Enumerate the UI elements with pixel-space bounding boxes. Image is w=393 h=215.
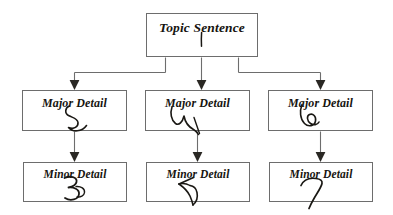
node-minor-detail-3-label: Minor Detail (270, 168, 372, 180)
node-minor-detail-1-label: Minor Detail (24, 168, 126, 180)
arrowhead-major-1 (70, 80, 80, 90)
node-major-detail-1[interactable]: Major Detail (22, 90, 127, 131)
arrowhead-major-3 (316, 80, 326, 90)
node-minor-detail-2[interactable]: Minor Detail (146, 162, 250, 202)
node-topic-sentence[interactable]: Topic Sentence (146, 13, 258, 57)
arrowhead-minor-2 (193, 152, 203, 162)
arrowhead-minor-3 (316, 152, 326, 162)
node-minor-detail-2-label: Minor Detail (147, 168, 249, 180)
node-minor-detail-3[interactable]: Minor Detail (269, 162, 373, 202)
node-major-detail-3-label: Major Detail (269, 96, 372, 111)
node-minor-detail-1[interactable]: Minor Detail (23, 162, 127, 202)
node-topic-sentence-label: Topic Sentence (147, 20, 257, 36)
node-major-detail-3[interactable]: Major Detail (268, 90, 373, 131)
arrowhead-major-2 (197, 80, 207, 90)
node-major-detail-2-label: Major Detail (146, 96, 249, 111)
node-major-detail-1-label: Major Detail (23, 96, 126, 111)
node-major-detail-2[interactable]: Major Detail (145, 90, 250, 131)
arrowhead-minor-1 (70, 152, 80, 162)
diagram-canvas: Topic Sentence Major Detail Major Detail… (0, 0, 393, 215)
